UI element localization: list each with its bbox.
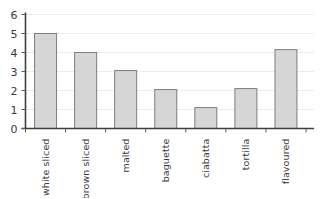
y-tick-label: 4	[11, 47, 18, 60]
y-tick-label: 0	[11, 123, 18, 136]
x-category-label: flavoured	[280, 139, 291, 185]
bar	[235, 89, 257, 129]
y-tick-label: 6	[11, 9, 18, 22]
chart-canvas: 0123456 white slicedbrown slicedmaltedba…	[0, 0, 320, 198]
x-category-label: malted	[120, 139, 131, 173]
bars-group	[35, 34, 297, 129]
y-axis-tick-labels: 0123456	[11, 9, 26, 136]
y-tick-label: 1	[11, 104, 18, 117]
x-category-label: tortilla	[240, 139, 251, 171]
bar	[275, 50, 297, 129]
y-tick-label: 3	[11, 66, 18, 79]
x-category-label: ciabatta	[200, 139, 211, 179]
bar	[115, 71, 137, 129]
y-tick-label: 2	[11, 85, 18, 98]
bar	[75, 53, 97, 129]
bar	[195, 108, 217, 129]
bar	[155, 90, 177, 129]
x-category-label: white sliced	[40, 139, 51, 197]
y-tick-label: 5	[11, 28, 18, 41]
x-category-label: brown sliced	[80, 139, 91, 199]
x-category-label: baguette	[160, 138, 171, 182]
x-axis-category-labels: white slicedbrown slicedmaltedbaguetteci…	[40, 138, 291, 198]
bar-chart: 0123456 white slicedbrown slicedmaltedba…	[0, 0, 320, 198]
bar	[35, 34, 57, 129]
